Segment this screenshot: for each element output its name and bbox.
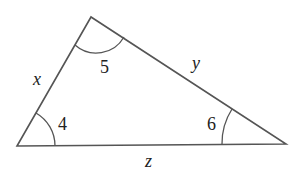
angle-label-4: 4 [58, 114, 67, 134]
angle-label-5: 5 [100, 57, 109, 77]
triangle-diagram: x y z 4 5 6 [0, 0, 305, 175]
side-label-y: y [190, 53, 200, 73]
angle-arc-top [75, 37, 124, 53]
angle-arc-bottom-left [36, 113, 55, 146]
side-label-z: z [144, 151, 152, 171]
angle-label-6: 6 [207, 114, 216, 134]
angle-arc-bottom-right [222, 109, 232, 144]
side-label-x: x [32, 69, 41, 89]
